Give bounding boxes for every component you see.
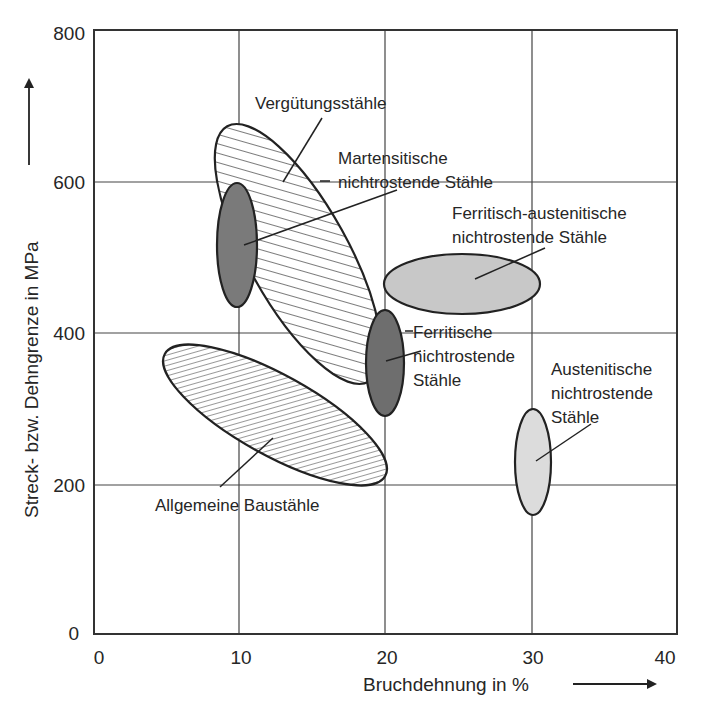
y-tick-400: 400 <box>53 323 85 344</box>
x-tick-30: 30 <box>522 647 543 668</box>
label-ferritisch-line1: Ferritische <box>413 323 492 342</box>
y-axis-title: Streck- bzw. Dehngrenze in MPa <box>21 241 42 518</box>
label-verguetungsstaehle: Vergütungsstähle <box>255 94 386 113</box>
label-ferritisch-line2: nichtrostende <box>413 347 515 366</box>
label-martensitisch-line2: nichtrostende Stähle <box>338 173 493 192</box>
region-ferritische <box>366 310 404 416</box>
label-austenitisch-line1: Austenitische <box>551 360 652 379</box>
label-ferr-aust-line2: nichtrostende Stähle <box>452 228 607 247</box>
y-tick-200: 200 <box>53 475 85 496</box>
region-ferritisch-austenitische <box>384 254 540 314</box>
y-tick-800: 800 <box>53 23 85 44</box>
label-martensitisch-line1: Martensitische <box>338 149 448 168</box>
region-austenitische <box>515 409 551 515</box>
x-axis-title: Bruchdehnung in % <box>363 674 529 695</box>
y-tick-0: 0 <box>68 623 79 644</box>
y-tick-labels: 800 600 400 200 0 <box>53 23 85 644</box>
x-tick-10: 10 <box>230 647 251 668</box>
y-tick-600: 600 <box>53 172 85 193</box>
x-tick-labels: 0 10 20 30 40 <box>94 647 676 668</box>
label-austenitisch-line2: nichtrostende <box>551 384 653 403</box>
x-tick-0: 0 <box>94 647 105 668</box>
x-tick-40: 40 <box>654 647 675 668</box>
label-allgemeine-baustaehle: Allgemeine Baustähle <box>155 496 319 515</box>
region-martensitische <box>217 183 257 307</box>
label-austenitisch-line3: Stähle <box>551 408 599 427</box>
chart-canvas: Vergütungsstähle Martensitische nichtros… <box>0 0 701 712</box>
label-ferr-aust-line1: Ferritisch-austenitische <box>452 204 627 223</box>
x-tick-20: 20 <box>376 647 397 668</box>
label-ferritisch-line3: Stähle <box>413 371 461 390</box>
